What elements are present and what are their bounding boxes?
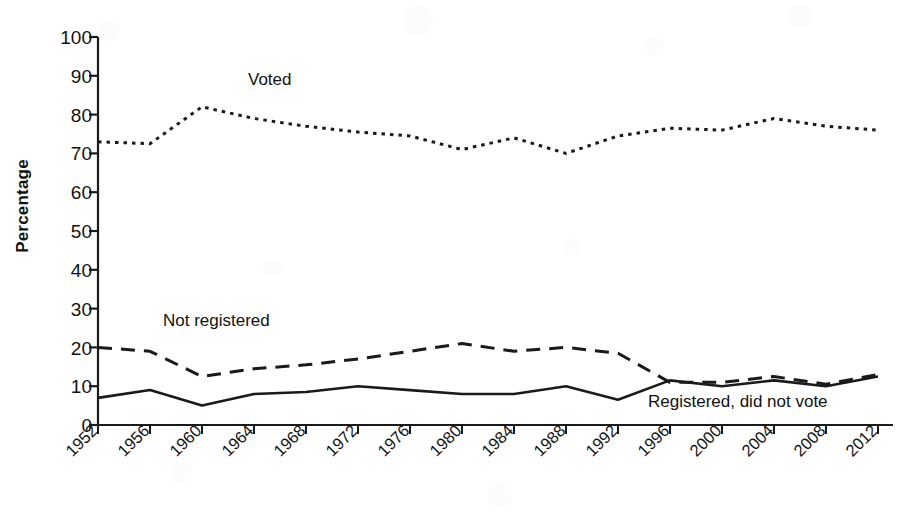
series-annotation-not-registered: Not registered: [163, 311, 270, 331]
y-tick-label: 30: [46, 300, 92, 319]
series-line-1: [98, 344, 878, 385]
y-tick-label: 40: [46, 261, 92, 280]
y-tick-label: 90: [46, 67, 92, 86]
y-tick-label: 80: [46, 106, 92, 125]
series-lines: [98, 107, 878, 406]
y-tick-label: 20: [46, 339, 92, 358]
series-annotation-registered-did-not-vote: Registered, did not vote: [648, 392, 828, 412]
series-annotation-voted: Voted: [248, 70, 292, 90]
y-tick-label: 60: [46, 183, 92, 202]
series-line-0: [98, 107, 878, 154]
axis-lines: [98, 37, 893, 425]
y-tick-label: 50: [46, 222, 92, 241]
y-tick-label: 100: [46, 28, 92, 47]
y-axis-title: Percentage: [13, 136, 33, 276]
chart-figure: Percentage 100 90 80 70 60 50 40 30 20 1…: [0, 0, 909, 515]
y-tick-label: 70: [46, 144, 92, 163]
y-tick-label: 10: [46, 377, 92, 396]
